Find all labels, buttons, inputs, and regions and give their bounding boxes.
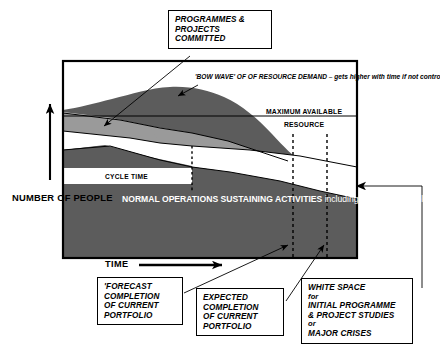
callout-expected-line-2: COMPLETION <box>203 303 278 313</box>
cycle-time-label: CYCLE TIME <box>105 173 148 180</box>
callout-expected-line-3: OF CURRENT <box>203 312 278 322</box>
bow-wave-annotation: 'BOW WAVE' OF OF RESOURCE DEMAND – gets … <box>195 73 440 82</box>
normal-operations-label: NORMAL OPERATIONS SUSTAINING ACTIVITIES … <box>122 193 282 205</box>
callout-expected-line-4: PORTFOLIO <box>203 322 278 332</box>
callout-whitespace-line-1: WHITE SPACE <box>308 283 407 293</box>
bow-wave-line-1: 'BOW WAVE' OF OF RESOURCE DEMAND <box>195 73 327 80</box>
callout-forecast-line-1: 'FORECAST <box>104 282 177 292</box>
normal-operations-line-4: problem solving <box>404 194 440 204</box>
callout-whitespace-line-4: & PROJECT STUDIES <box>308 311 407 321</box>
y-axis-label: NUMBER OF PEOPLE <box>12 192 113 204</box>
resource-label: RESOURCE <box>284 121 324 128</box>
x-axis-label: TIME <box>105 259 129 269</box>
callout-programmes-line-1: PROGRAMMES & <box>175 15 266 25</box>
callout-programmes-and-projects-committed: PROGRAMMES & PROJECTS COMMITTED <box>168 10 272 49</box>
callout-forecast-line-4: PORTFOLIO <box>104 311 177 321</box>
callout-whitespace-line-5: or <box>308 320 407 329</box>
callout-white-space: WHITE SPACE for INITIAL PROGRAMME & PROJ… <box>301 278 413 344</box>
normal-operations-line-1: NORMAL OPERATIONS <box>122 194 218 204</box>
maximum-available-label: MAXIMUM AVAILABLE <box>266 108 342 115</box>
callout-programmes-line-3: COMMITTED <box>175 34 266 44</box>
callout-expected-line-1: EXPECTED <box>203 293 278 303</box>
normal-operations-line-2: SUSTAINING ACTIVITIES <box>221 194 323 204</box>
callout-forecast-completion: 'FORECAST COMPLETION OF CURRENT PORTFOLI… <box>97 277 183 325</box>
y-axis-label-line-3: PEOPLE <box>73 192 112 203</box>
callout-expected-completion: EXPECTED COMPLETION OF CURRENT PORTFOLIO <box>196 288 284 336</box>
callout-forecast-line-2: COMPLETION <box>104 292 177 302</box>
callout-whitespace-line-6: MAJOR CRISES <box>308 329 407 339</box>
callout-forecast-line-3: OF CURRENT <box>104 301 177 311</box>
y-axis-label-line-2: OF <box>57 192 70 203</box>
callout-programmes-line-2: PROJECTS <box>175 25 266 35</box>
normal-operations-line-3: including day-to-day <box>325 194 402 204</box>
callout-whitespace-line-2: for <box>308 293 407 302</box>
y-axis-label-line-1: NUMBER <box>12 192 54 203</box>
bow-wave-line-2: – gets higher with time if not controlle… <box>329 73 440 80</box>
diagram-canvas: 'BOW WAVE' OF OF RESOURCE DEMAND – gets … <box>0 0 440 360</box>
callout-whitespace-line-3: INITIAL PROGRAMME <box>308 301 407 311</box>
